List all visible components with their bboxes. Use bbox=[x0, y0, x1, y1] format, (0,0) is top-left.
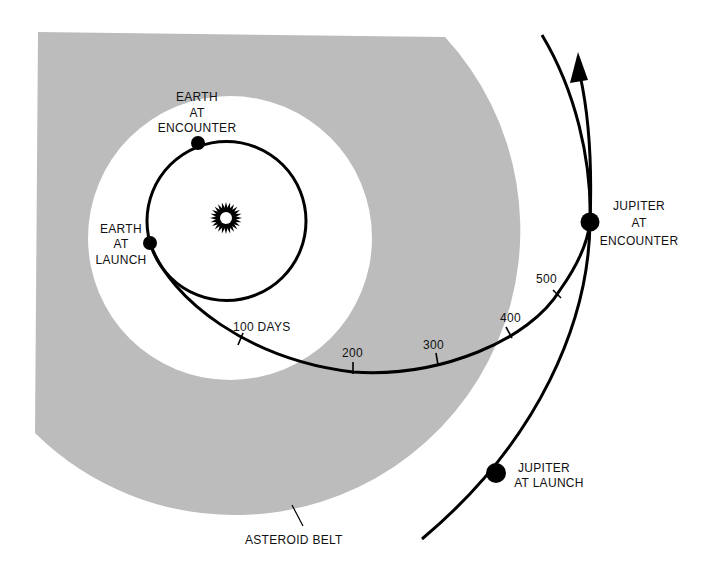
earth-at-launch-marker bbox=[143, 236, 157, 250]
day-label-200: 200 bbox=[342, 346, 363, 360]
svg-text:ENCOUNTER: ENCOUNTER bbox=[600, 234, 679, 248]
direction-arrow-icon bbox=[570, 52, 588, 83]
trajectory-diagram: EARTH AT ENCOUNTER EARTH AT LAUNCH JUPIT… bbox=[0, 0, 702, 572]
asteroid-belt-label: ASTEROID BELT bbox=[245, 533, 343, 547]
svg-text:JUPITER: JUPITER bbox=[613, 199, 665, 213]
day-label-500: 500 bbox=[536, 272, 557, 286]
asteroid-belt-region bbox=[35, 32, 520, 515]
jupiter-at-encounter-marker bbox=[581, 213, 600, 232]
svg-text:AT: AT bbox=[189, 106, 204, 120]
svg-text:AT LAUNCH: AT LAUNCH bbox=[514, 476, 584, 490]
day-label-100: 100 DAYS bbox=[233, 320, 291, 334]
svg-text:LAUNCH: LAUNCH bbox=[95, 253, 146, 267]
svg-text:AT: AT bbox=[113, 237, 128, 251]
svg-text:EARTH: EARTH bbox=[176, 90, 218, 104]
svg-text:AT: AT bbox=[631, 216, 646, 230]
svg-text:JUPITER: JUPITER bbox=[518, 461, 570, 475]
day-label-400: 400 bbox=[500, 311, 521, 325]
jupiter-at-encounter-label: JUPITER AT ENCOUNTER bbox=[600, 199, 679, 248]
day-label-300: 300 bbox=[423, 338, 444, 352]
jupiter-at-launch-marker bbox=[486, 463, 506, 483]
sun-icon bbox=[210, 202, 242, 234]
jupiter-at-launch-label: JUPITER AT LAUNCH bbox=[514, 461, 584, 490]
svg-text:ENCOUNTER: ENCOUNTER bbox=[158, 121, 237, 135]
earth-at-encounter-marker bbox=[191, 136, 205, 150]
svg-text:EARTH: EARTH bbox=[100, 222, 142, 236]
